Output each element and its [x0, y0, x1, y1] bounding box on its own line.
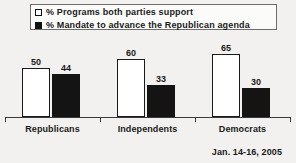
- open-square-icon: [35, 9, 42, 16]
- bar-value-label: 65: [221, 43, 231, 53]
- legend-item-label: % Mandate to advance the Republican agen…: [46, 20, 250, 30]
- x-axis-category-label: Republicans: [5, 124, 100, 134]
- bar-group-independents: 60 33 Independents: [100, 34, 195, 117]
- chart-legend: % Programs both parties support % Mandat…: [30, 4, 277, 30]
- bar-democrats-programs: 65: [212, 54, 240, 117]
- filled-square-icon: [35, 22, 42, 29]
- x-axis-category-label: Democrats: [195, 124, 290, 134]
- bar-group-republicans: 50 44 Republicans: [5, 34, 100, 117]
- bar-democrats-mandate: 30: [242, 88, 270, 117]
- x-axis-tick: [5, 118, 6, 122]
- bar-republicans-mandate: 44: [52, 74, 80, 117]
- bar-value-label: 50: [31, 57, 41, 67]
- plot-area: 50 44 Republicans 60 33 Independents: [0, 34, 296, 119]
- x-axis-tick: [195, 118, 196, 122]
- x-axis-tick: [290, 118, 291, 122]
- chart-date-annotation: Jan. 14-16, 2005: [212, 147, 282, 157]
- legend-item-mandate-republican-agenda: % Mandate to advance the Republican agen…: [35, 19, 272, 31]
- bar-republicans-programs: 50: [22, 68, 50, 117]
- bar-value-label: 60: [126, 48, 136, 58]
- x-axis-tick: [100, 118, 101, 122]
- x-axis-line: [5, 117, 291, 118]
- bar-independents-programs: 60: [117, 59, 145, 117]
- bar-value-label: 30: [251, 77, 261, 87]
- bar-value-label: 33: [156, 74, 166, 84]
- legend-item-programs-both-parties-support: % Programs both parties support: [35, 6, 272, 18]
- x-axis-category-label: Independents: [100, 124, 195, 134]
- bar-independents-mandate: 33: [147, 85, 175, 117]
- bar-group-democrats: 65 30 Democrats: [195, 34, 290, 117]
- legend-item-label: % Programs both parties support: [46, 7, 193, 17]
- bar-value-label: 44: [61, 63, 71, 73]
- grouped-bar-chart: % Programs both parties support % Mandat…: [0, 0, 296, 163]
